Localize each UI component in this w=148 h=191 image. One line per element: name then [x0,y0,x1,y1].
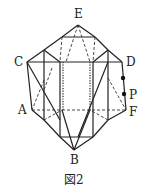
point-p-dot [122,92,126,96]
top-cap [62,25,95,62]
polyhedron-diagram: E C D P A F B 図2 [0,0,148,191]
label-e: E [74,7,83,21]
figure-caption: 図2 [64,173,84,187]
label-d: D [126,55,136,69]
bottom-faces [32,110,126,150]
label-c: C [14,55,23,69]
prism-body [27,50,126,137]
upper-point-dot [121,76,125,80]
label-p: P [129,88,137,102]
label-a: A [17,103,27,117]
label-f: F [129,105,137,119]
label-b: B [70,153,79,167]
